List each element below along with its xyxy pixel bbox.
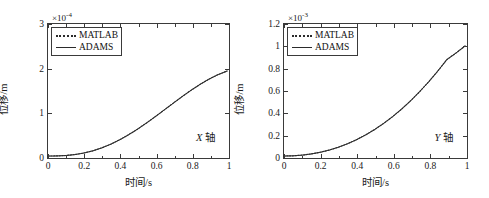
y-tick-label: 1.2	[268, 19, 280, 30]
axis-annotation-x: X 轴	[196, 129, 215, 144]
x-minor-tick-mark	[449, 24, 450, 27]
x-tick-label: 1	[227, 161, 232, 172]
legend-label-matlab: MATLAB	[79, 30, 118, 41]
x-minor-tick-mark	[412, 24, 413, 27]
x-tick-label: 0.2	[78, 161, 90, 172]
legend-entry-matlab: MATLAB	[55, 29, 118, 41]
x-tick-mark	[84, 24, 85, 28]
legend-label-matlab: MATLAB	[315, 30, 354, 41]
x-minor-tick-mark	[376, 156, 377, 159]
x-tick-label: 0	[282, 161, 287, 172]
x-tick-mark	[394, 154, 395, 158]
y-tick-mark	[463, 136, 467, 137]
x-tick-mark	[467, 154, 468, 158]
x-tick-label: 0.6	[151, 161, 163, 172]
y-tick-label: 0.6	[268, 86, 280, 97]
x-tick-mark	[430, 154, 431, 158]
x-minor-tick-mark	[139, 24, 140, 27]
y-tick-label: 3	[39, 19, 44, 30]
x-tick-mark	[193, 154, 194, 158]
y-tick-mark	[225, 113, 229, 114]
y-axis-title-left: 位移/m	[0, 83, 10, 114]
x-tick-mark	[193, 24, 194, 28]
x-axis-title: 时间/s	[125, 174, 152, 189]
x-tick-label: 0.2	[315, 161, 327, 172]
y-tick-mark	[463, 158, 467, 159]
x-minor-tick-mark	[175, 156, 176, 159]
y-tick-mark	[463, 69, 467, 70]
axis-annotation-y: Y 轴	[435, 129, 453, 144]
solid-line-icon	[55, 42, 77, 52]
x-tick-mark	[157, 24, 158, 28]
x-tick-mark	[357, 24, 358, 28]
legend-label-adams: ADAMS	[79, 42, 113, 53]
y-tick-mark	[463, 46, 467, 47]
y-tick-mark	[284, 24, 288, 25]
y-tick-mark	[284, 69, 288, 70]
plot-axes-x-axis: ×10-4 MATLAB ADAMS X 轴 00.20.40.60.81012…	[47, 23, 230, 159]
x-minor-tick-mark	[211, 24, 212, 27]
x-tick-mark	[467, 24, 468, 28]
dotted-line-icon	[55, 30, 77, 40]
y-tick-mark	[284, 158, 288, 159]
legend-y-axis: MATLAB ADAMS	[287, 27, 358, 56]
x-minor-tick-mark	[102, 24, 103, 27]
x-minor-tick-mark	[339, 24, 340, 27]
x-minor-tick-mark	[211, 156, 212, 159]
y-tick-mark	[284, 113, 288, 114]
x-tick-label: 0	[46, 161, 51, 172]
x-tick-mark	[120, 24, 121, 28]
x-minor-tick-mark	[66, 156, 67, 159]
legend-x-axis: MATLAB ADAMS	[51, 27, 122, 56]
x-minor-tick-mark	[102, 156, 103, 159]
y-tick-mark	[284, 136, 288, 137]
x-tick-mark	[357, 154, 358, 158]
x-minor-tick-mark	[412, 156, 413, 159]
y-tick-label: 2	[39, 63, 44, 74]
dotted-line-icon	[291, 30, 313, 40]
y-axis-title-right: 位移/m	[231, 83, 246, 114]
y-tick-label: 0.4	[268, 108, 280, 119]
x-tick-label: 0.8	[187, 161, 199, 172]
chart-panel-x-axis: ×10-4 MATLAB ADAMS X 轴 00.20.40.60.81012…	[0, 0, 244, 198]
x-minor-tick-mark	[175, 24, 176, 27]
y-tick-mark	[463, 113, 467, 114]
figure-container: ×10-4 MATLAB ADAMS X 轴 00.20.40.60.81012…	[0, 0, 489, 198]
x-minor-tick-mark	[376, 24, 377, 27]
x-tick-mark	[229, 154, 230, 158]
y-tick-mark	[284, 91, 288, 92]
x-tick-mark	[120, 154, 121, 158]
x-minor-tick-mark	[449, 156, 450, 159]
y-tick-mark	[48, 158, 52, 159]
x-tick-mark	[321, 24, 322, 28]
x-tick-label: 0.8	[424, 161, 436, 172]
x-minor-tick-mark	[139, 156, 140, 159]
x-tick-mark	[229, 24, 230, 28]
y-tick-mark	[225, 69, 229, 70]
y-tick-label: 1	[275, 41, 280, 52]
plot-axes-y-axis: ×10-3 MATLAB ADAMS Y 轴 00.20.40.60.8100.…	[283, 23, 468, 159]
y-tick-label: 1	[39, 108, 44, 119]
legend-entry-adams: ADAMS	[291, 41, 354, 53]
y-tick-label: 0.2	[268, 130, 280, 141]
x-axis-title: 时间/s	[362, 174, 389, 189]
y-tick-mark	[463, 91, 467, 92]
x-tick-mark	[430, 24, 431, 28]
x-minor-tick-mark	[302, 24, 303, 27]
y-axis-exponent-label: ×10-3	[288, 11, 308, 23]
x-tick-label: 0.4	[114, 161, 126, 172]
x-tick-mark	[157, 154, 158, 158]
y-tick-mark	[284, 46, 288, 47]
x-tick-label: 0.6	[388, 161, 400, 172]
chart-panel-y-axis: ×10-3 MATLAB ADAMS Y 轴 00.20.40.60.8100.…	[244, 0, 489, 198]
x-tick-mark	[84, 154, 85, 158]
x-tick-mark	[321, 154, 322, 158]
legend-entry-matlab: MATLAB	[291, 29, 354, 41]
y-tick-mark	[48, 113, 52, 114]
y-tick-mark	[48, 24, 52, 25]
x-minor-tick-mark	[302, 156, 303, 159]
y-tick-mark	[48, 69, 52, 70]
y-tick-mark	[225, 24, 229, 25]
y-tick-label: 0	[39, 153, 44, 164]
y-tick-mark	[463, 24, 467, 25]
